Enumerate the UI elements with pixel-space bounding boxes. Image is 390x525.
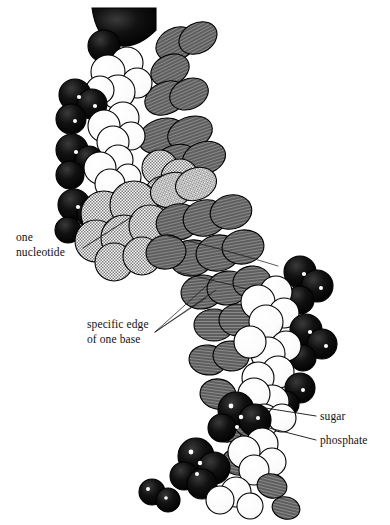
label-sugar-text: sugar [320,410,345,423]
label-specific-edge-line1: specific edge [87,318,149,331]
label-one-nucleotide-line1: one [16,231,33,243]
dna-space-filling-diagram: one nucleotide specific edge of one base… [0,0,390,525]
label-specific-edge-line2: of one base [87,333,140,345]
label-phosphate-text: phosphate [320,434,368,447]
dna-figure: one nucleotide specific edge of one base… [0,0,390,525]
label-one-nucleotide-line2: nucleotide [16,246,65,258]
